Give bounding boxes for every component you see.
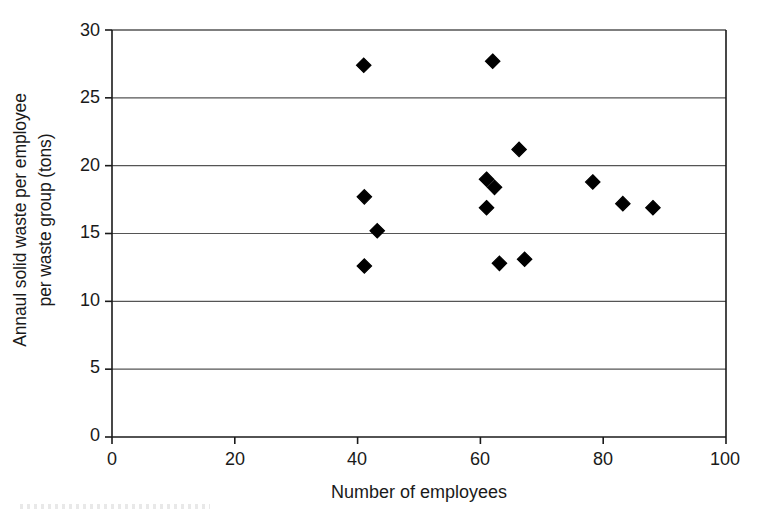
scatter-chart-figure: Annaul solid waste per employee per wast… (0, 0, 759, 518)
gridlines (112, 30, 726, 369)
data-point (485, 54, 499, 68)
data-point (646, 201, 660, 215)
data-point (517, 252, 531, 266)
data-point (357, 259, 371, 273)
data-point-series (357, 54, 661, 273)
data-point (370, 224, 384, 238)
data-point (357, 190, 371, 204)
scan-artifact (20, 504, 210, 509)
data-point (586, 175, 600, 189)
data-point (492, 256, 506, 270)
axis-ticks (105, 30, 726, 444)
plot-area (0, 0, 759, 518)
data-point (479, 201, 493, 215)
data-point (616, 196, 630, 210)
data-point (357, 58, 371, 72)
data-point (512, 142, 526, 156)
